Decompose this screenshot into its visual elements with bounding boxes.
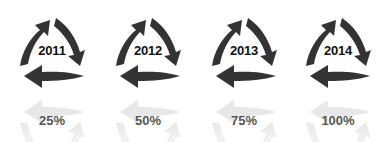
percent-label: 25% [4, 113, 100, 128]
year-label: 2012 [100, 43, 196, 58]
year-label: 2013 [196, 43, 292, 58]
percent-label: 100% [290, 113, 386, 128]
year-item-2014: 2014 100% [290, 0, 386, 142]
year-item-2011: 2011 25% [4, 0, 100, 142]
percent-label: 50% [100, 113, 196, 128]
year-label: 2014 [290, 43, 386, 58]
year-label: 2011 [4, 43, 100, 58]
percent-label: 75% [196, 113, 292, 128]
year-item-2013: 2013 75% [196, 0, 292, 142]
year-item-2012: 2012 50% [100, 0, 196, 142]
